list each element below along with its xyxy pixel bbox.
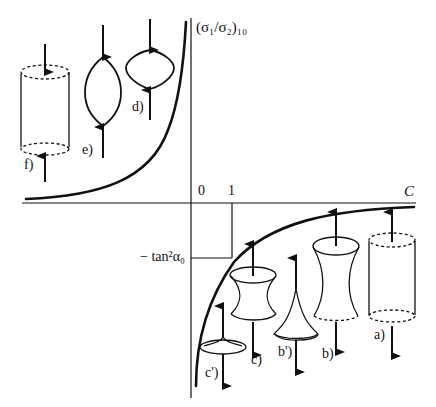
x-tick-1: 1 — [228, 184, 235, 198]
y-axis-label: (σ₁/σ₂)₁₀ — [196, 20, 247, 35]
y-tick-tan-alpha: − tan²α₀ — [140, 250, 185, 264]
label-c: c) — [251, 353, 262, 367]
shape-e-lens — [85, 25, 121, 158]
curves — [26, 22, 414, 386]
label-b: b) — [322, 347, 334, 361]
x-tick-0: 0 — [198, 184, 205, 198]
label-e: e) — [82, 143, 93, 157]
lower-right-branch — [196, 207, 414, 386]
shape-b-hyperboloid — [313, 212, 359, 352]
diagram-canvas — [0, 0, 436, 407]
upper-left-branch — [26, 22, 186, 199]
label-c-prime: c') — [205, 366, 218, 380]
label-d: d) — [132, 100, 144, 114]
x-axis-label: C — [404, 184, 414, 199]
label-f: f) — [24, 158, 33, 172]
label-b-prime: b') — [278, 345, 292, 359]
label-a: a) — [374, 328, 385, 342]
